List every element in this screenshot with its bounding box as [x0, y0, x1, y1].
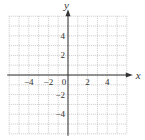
y-tick-label: 4 [61, 31, 66, 41]
x-axis-label: x [135, 69, 141, 81]
x-tick-label: 0 [62, 77, 67, 87]
x-tick-label: 4 [105, 77, 110, 87]
x-tick-label: −2 [44, 77, 54, 87]
x-tick-label: −4 [24, 77, 34, 87]
x-axis-arrow-icon [126, 73, 133, 78]
y-tick-label: −2 [55, 90, 65, 100]
axes [7, 9, 133, 136]
y-tick-label: 2 [61, 50, 66, 60]
coordinate-grid: −4−202442−2−4 x y [0, 0, 145, 140]
y-axis-label: y [63, 0, 69, 11]
x-tick-label: 2 [85, 77, 90, 87]
y-tick-label: −4 [55, 109, 65, 119]
